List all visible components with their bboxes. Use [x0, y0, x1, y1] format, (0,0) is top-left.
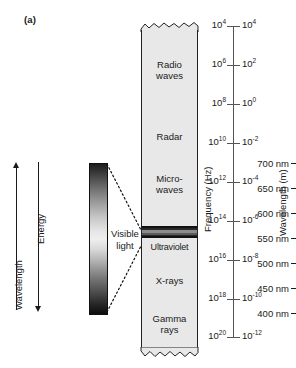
- band-x-rays: X-rays: [141, 262, 198, 300]
- visible-light-caption: Visible light: [108, 228, 142, 251]
- axis-tick: [227, 104, 240, 105]
- energy-arrow-label: Energy: [35, 214, 46, 244]
- band-label-radar: Radar: [141, 126, 198, 148]
- nm-tick-label: 400 nm: [257, 308, 289, 319]
- wavelength-tick-label: 10-4: [242, 175, 258, 186]
- axis-tick: [227, 337, 240, 338]
- axis-tick: [227, 221, 240, 222]
- panel-label: (a): [24, 14, 36, 25]
- wavelength-arrow-label: Wavelength: [13, 260, 24, 310]
- visible-band-stripe: [142, 226, 197, 228]
- axis-tick: [227, 143, 240, 144]
- frequency-tick-label: 104: [192, 19, 226, 30]
- visible-band-stripe: [142, 233, 197, 235]
- band-radio-waves: Radio waves: [141, 30, 198, 110]
- axis-tick: [227, 182, 240, 183]
- wavelength-tick-label: 10-10: [242, 292, 262, 303]
- wavelength-tick-label: 102: [242, 58, 256, 69]
- electromagnetic-spectrum-figure: (a) Wavelength Energy 700 nm 650 nm 600 …: [0, 0, 296, 368]
- band-visible-light: [141, 226, 198, 238]
- wavelength-tick-label: 10-2: [242, 136, 258, 147]
- visible-spectrum-bar: [89, 163, 108, 315]
- wavelength-tick-label: 10-12: [242, 330, 262, 341]
- frequency-tick-label: 1010: [192, 136, 226, 147]
- band-label-x-rays: X-rays: [156, 275, 183, 287]
- wavelength-tick-label: 100: [242, 97, 256, 108]
- frequency-tick-label: 106: [192, 58, 226, 69]
- nm-tick-label: 700 nm: [257, 158, 289, 169]
- band-label-ultraviolet: Ultraviolet: [141, 242, 198, 252]
- band-gamma-rays: Gamma rays: [141, 300, 198, 348]
- torn-bottom-edge: [140, 347, 199, 359]
- axis-tick: [227, 65, 240, 66]
- wavelength-axis-title: Wavelength (m): [277, 169, 288, 236]
- visible-light-caption-line1: Visible: [111, 228, 139, 239]
- axis-tick: [227, 260, 240, 261]
- frequency-axis-title: Frequency (Hz): [202, 167, 213, 232]
- wavelength-tick-label: 10-8: [242, 253, 258, 264]
- wavelength-tick-label: 104: [242, 19, 256, 30]
- axis-tick: [227, 299, 240, 300]
- band-label-radio-waves: Radio waves: [156, 59, 183, 82]
- em-spectrum-column: Radio waves Radar Micro- waves Ultraviol…: [141, 30, 198, 348]
- visible-light-caption-line2: light: [116, 240, 133, 251]
- nm-tick-label: 500 nm: [257, 258, 289, 269]
- band-label-gamma-rays: Gamma rays: [153, 313, 187, 336]
- axis-tick: [227, 26, 240, 27]
- nm-tick-label: 450 nm: [257, 283, 289, 294]
- band-label-microwaves: Micro- waves: [141, 170, 198, 198]
- frequency-tick-label: 1020: [192, 330, 226, 341]
- frequency-tick-label: 108: [192, 97, 226, 108]
- frequency-tick-label: 1016: [192, 253, 226, 264]
- frequency-tick-label: 1018: [192, 292, 226, 303]
- wavelength-tick-label: 10-6: [242, 214, 258, 225]
